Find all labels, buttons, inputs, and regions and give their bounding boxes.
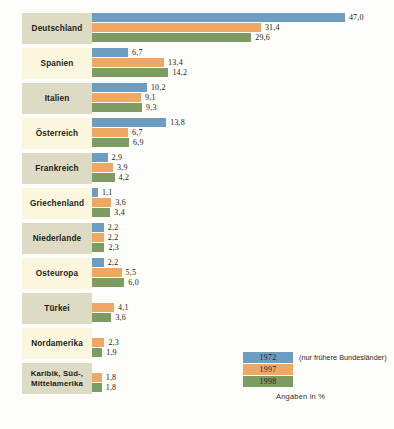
bar-value-label: 14,2 — [172, 68, 187, 77]
category-label: Karibik, Süd-,Mittelamerika — [31, 369, 83, 387]
chart-legend: 1972(nur frühere Bundesländer)19971998 — [243, 352, 389, 388]
category-label: Osteuropa — [36, 269, 78, 279]
bar-value-label: 2,3 — [108, 338, 119, 347]
category-label: Spanien — [41, 59, 74, 69]
bar-value-label: 13,4 — [168, 58, 183, 67]
category-label-block: Deutschland — [22, 13, 92, 44]
category-label: Frankreich — [35, 164, 78, 174]
bars-group: 2,22,22,3 — [92, 223, 392, 254]
bar-rect-1997 — [92, 233, 104, 242]
bar-1997: 4,1 — [92, 303, 392, 312]
bar-value-label: 29,6 — [255, 33, 270, 42]
bar-1998: 6,9 — [92, 138, 392, 147]
category-label-block: Osteuropa — [22, 258, 92, 289]
category-label: Griechenland — [30, 199, 84, 209]
bar-value-label: 2,9 — [112, 153, 123, 162]
legend-swatch-1998: 1998 — [243, 376, 293, 387]
category-label: Nordamerika — [31, 339, 83, 349]
chart-row: Österreich13,86,76,9 — [0, 116, 394, 151]
bar-value-label: 6,9 — [133, 138, 144, 147]
bar-rect-1998 — [92, 208, 110, 217]
chart-row: Italien10,29,19,3 — [0, 81, 394, 116]
chart-rows-container: Deutschland47,031,429,6Spanien6,713,414,… — [0, 11, 394, 396]
bar-value-label: 9,1 — [145, 93, 156, 102]
bars-group: 47,031,429,6 — [92, 13, 392, 44]
category-label-block: Niederlande — [22, 223, 92, 254]
bar-value-label: 6,7 — [132, 128, 143, 137]
bar-value-label: 2,3 — [108, 243, 119, 252]
category-label-block: Frankreich — [22, 153, 92, 184]
bar-rect-1998 — [92, 348, 102, 357]
bar-1972: 6,7 — [92, 48, 392, 57]
legend-swatch-1997: 1997 — [243, 364, 293, 375]
bar-1972 — [92, 328, 392, 337]
category-label: Türkei — [44, 304, 69, 314]
bar-1998: 2,3 — [92, 243, 392, 252]
category-label-block: Italien — [22, 83, 92, 114]
bar-rect-1997 — [92, 268, 122, 277]
legend-year-label: 1997 — [260, 365, 277, 374]
bar-value-label: 6,7 — [132, 48, 143, 57]
legend-year-label: 1998 — [260, 377, 277, 386]
bar-value-label: 4,1 — [118, 303, 129, 312]
bar-rect-1972 — [92, 188, 98, 197]
legend-entry: 1998 — [243, 376, 389, 387]
legend-entry: 1997 — [243, 364, 389, 375]
chart-row: Niederlande2,22,22,3 — [0, 221, 394, 256]
bars-group: 13,86,76,9 — [92, 118, 392, 149]
bar-value-label: 3,6 — [115, 313, 126, 322]
category-label-block: Spanien — [22, 48, 92, 79]
chart-row: Griechenland1,13,63,4 — [0, 186, 394, 221]
bar-1997: 3,6 — [92, 198, 392, 207]
chart-row: Türkei4,13,6 — [0, 291, 394, 326]
bars-group: 2,93,94,2 — [92, 153, 392, 184]
bar-rect-1998 — [92, 103, 142, 112]
chart-row: Deutschland47,031,429,6 — [0, 11, 394, 46]
bar-rect-1998 — [92, 68, 168, 77]
bar-1997: 6,7 — [92, 128, 392, 137]
category-label: Deutschland — [32, 24, 83, 34]
bar-rect-1998 — [92, 138, 129, 147]
bar-chart: Deutschland47,031,429,6Spanien6,713,414,… — [0, 0, 394, 429]
bar-rect-1998 — [92, 278, 124, 287]
bar-value-label: 5,5 — [126, 268, 137, 277]
bar-rect-1972 — [92, 83, 147, 92]
chart-row: Spanien6,713,414,2 — [0, 46, 394, 81]
bar-1972: 47,0 — [92, 13, 392, 22]
bar-1998: 29,6 — [92, 33, 392, 42]
bar-1972: 2,2 — [92, 258, 392, 267]
bar-value-label: 1,1 — [102, 188, 113, 197]
bar-rect-1997 — [92, 338, 104, 347]
bar-1997: 2,3 — [92, 338, 392, 347]
bar-1972 — [92, 293, 392, 302]
category-label: Österreich — [36, 129, 78, 139]
category-label: Italien — [45, 94, 70, 104]
bars-group: 2,25,56,0 — [92, 258, 392, 289]
legend-swatch-1972: 1972 — [243, 352, 293, 363]
bar-1972: 10,2 — [92, 83, 392, 92]
bar-rect-1972 — [92, 13, 345, 22]
bar-value-label: 31,4 — [265, 23, 280, 32]
legend-note: (nur frühere Bundesländer) — [299, 353, 387, 362]
bars-group: 10,29,19,3 — [92, 83, 392, 114]
bar-value-label: 2,2 — [108, 258, 119, 267]
bar-1998: 6,0 — [92, 278, 392, 287]
category-label-block: Griechenland — [22, 188, 92, 219]
bar-rect-1997 — [92, 198, 111, 207]
bar-value-label: 3,9 — [117, 163, 128, 172]
bar-value-label: 6,0 — [128, 278, 139, 287]
legend-year-label: 1972 — [260, 353, 277, 362]
bar-1998: 14,2 — [92, 68, 392, 77]
bar-rect-1998 — [92, 33, 251, 42]
bar-1998: 4,2 — [92, 173, 392, 182]
bar-1998: 9,3 — [92, 103, 392, 112]
bar-1997: 13,4 — [92, 58, 392, 67]
bar-1997: 2,2 — [92, 233, 392, 242]
bar-1972: 2,2 — [92, 223, 392, 232]
bar-value-label: 4,2 — [119, 173, 130, 182]
bar-rect-1972 — [92, 153, 108, 162]
bars-group: 6,713,414,2 — [92, 48, 392, 79]
bar-value-label: 47,0 — [349, 13, 364, 22]
bar-value-label: 9,3 — [146, 103, 157, 112]
bar-rect-1997 — [92, 163, 113, 172]
